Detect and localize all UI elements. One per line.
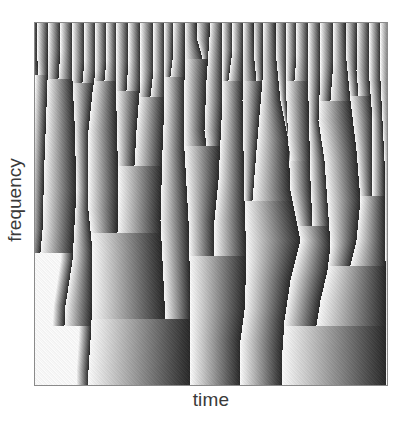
figure: time frequency — [0, 0, 411, 421]
phase-heatmap — [35, 23, 387, 385]
y-axis-label: frequency — [4, 130, 28, 270]
x-axis-label: time — [34, 389, 388, 411]
plot-area — [34, 22, 388, 386]
